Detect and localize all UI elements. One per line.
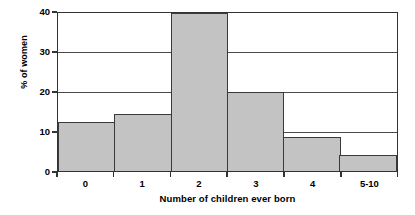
y-tick-label-0: 0: [24, 167, 50, 177]
table-row: [171, 13, 228, 171]
table-row: [283, 137, 340, 171]
bars-layer: [58, 13, 397, 171]
x-tick-label-3: 3: [226, 178, 286, 189]
x-tick-label-0: 0: [55, 178, 115, 189]
x-tick-mark-2: [170, 172, 172, 177]
table-row: [339, 155, 396, 171]
x-tick-label-2: 2: [169, 178, 229, 189]
x-tick-mark-4: [283, 172, 285, 177]
x-tick-label-4: 4: [283, 178, 343, 189]
y-tick-label-10: 10: [24, 127, 50, 137]
x-tick-mark-3: [226, 172, 228, 177]
x-tick-mark-5: [340, 172, 342, 177]
table-row: [114, 114, 171, 171]
table-row: [58, 122, 115, 171]
y-tick-label-30: 30: [24, 47, 50, 57]
x-tick-mark-6: [397, 172, 399, 177]
x-tick-label-1: 1: [112, 178, 172, 189]
y-tick-label-20: 20: [24, 87, 50, 97]
y-tick-label-40: 40: [24, 7, 50, 17]
x-axis-title: Number of children ever born: [57, 193, 398, 205]
x-tick-label-5: 5-10: [339, 178, 399, 189]
bar-chart: % of women 0 10 20 30 40 0 1 2 3 4 5-10 …: [0, 0, 415, 215]
table-row: [227, 92, 284, 171]
plot-area: [57, 12, 398, 172]
x-tick-mark-0: [56, 172, 58, 177]
x-tick-mark-1: [113, 172, 115, 177]
